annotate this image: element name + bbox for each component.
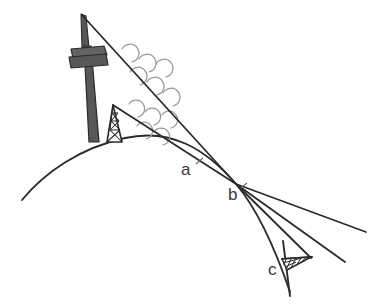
lattice-tower (107, 105, 122, 142)
label-a: a (181, 160, 191, 179)
upper-ray-line (82, 15, 236, 184)
mast-platform-lower (69, 54, 108, 68)
label-b: b (228, 185, 237, 204)
diagram-canvas: a b c (0, 0, 379, 304)
label-c: c (268, 260, 277, 279)
radio-horizon-diagram: a b c (0, 0, 379, 304)
upper-ray-extension (236, 184, 366, 232)
earth-surface-curve (22, 135, 290, 292)
tangent-ray-line (236, 184, 345, 262)
